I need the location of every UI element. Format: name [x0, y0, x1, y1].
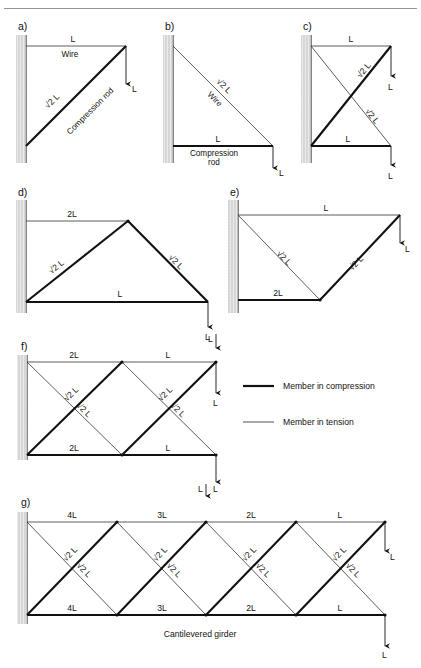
label-e-load: L: [405, 244, 410, 254]
label-g-top-chord-3: 2L: [246, 510, 256, 520]
label-c-load-top: L: [388, 82, 393, 92]
panel-f: f) 2L L 2L L √2 L √2 L √2 L √2 L L L L: [17, 334, 218, 494]
label-g-diag-1a: √2 L: [60, 544, 79, 563]
label-b-load: L: [279, 168, 284, 178]
truss-figure-sheet: a) L Wire √2 L Compression rod L b) √2 L…: [0, 0, 421, 668]
wall-support-f: [17, 355, 27, 460]
label-f-diag-b2: √2 L: [169, 400, 188, 419]
label-g-top-chord-1: 4L: [67, 510, 77, 520]
node-g-bottom-1: [115, 613, 118, 616]
label-g-diag-1b: √2 L: [75, 560, 94, 579]
label-g-bottom-chord-2: 3L: [157, 603, 167, 613]
label-g-top-chord-2: 3L: [157, 510, 167, 520]
label-a-top-chord: L: [71, 34, 76, 44]
panel-e: e) L 2L √2 L √2 L L: [228, 186, 410, 313]
label-c-diagonal-1: √2 L: [355, 60, 373, 79]
label-b-diagonal: √2 L: [215, 76, 234, 95]
label-a-top-chord-note: Wire: [62, 50, 79, 59]
label-g-diag-3b: √2 L: [254, 560, 273, 579]
label-c-diagonal-2: √2 L: [363, 106, 381, 125]
label-f-top-chord-1: 2L: [69, 350, 79, 360]
label-g-bottom-chord-3: 2L: [246, 603, 256, 613]
label-g-load-top: L: [198, 484, 203, 494]
label-a-diagonal-note: Compression rod: [65, 86, 116, 137]
label-g-bottom-chord-4: L: [338, 603, 343, 613]
label-b-bottom-chord-note-2: rod: [208, 158, 220, 167]
panel-d: d) 2L L √2 L √2 L L: [16, 186, 210, 342]
legend-tension-label: Member in tension: [283, 417, 354, 427]
node-e-bottom: [319, 299, 322, 302]
label-b-bottom-chord-note-1: Compression: [190, 149, 239, 158]
node-g-bottom-2: [204, 613, 207, 616]
label-g-diag-2b: √2 L: [165, 560, 184, 579]
label-f-top-chord-2: L: [166, 350, 171, 360]
label-e-top-chord: L: [324, 203, 329, 213]
panel-f-tag: f): [21, 340, 27, 352]
node-g-top-1: [115, 520, 118, 523]
label-e-diagonal-left: √2 L: [275, 248, 294, 267]
node-g-top-2: [204, 520, 207, 523]
panel-b-tag: b): [165, 20, 174, 32]
wall-support-a: [16, 35, 26, 163]
label-a-load: L: [132, 84, 137, 94]
wall-support-e: [228, 200, 238, 313]
label-d-bottom-chord: L: [118, 289, 123, 299]
label-c-load-bottom: L: [388, 171, 393, 181]
legend-compression-label: Member in compression: [283, 381, 375, 391]
panel-b: b) √2 L Wire L Compression rod L: [163, 20, 284, 178]
label-b-diagonal-note: Wire: [206, 90, 225, 109]
label-g-bottom-chord-1: 4L: [67, 603, 77, 613]
panel-a: a) L Wire √2 L Compression rod L: [16, 20, 137, 163]
node-f-top-mid: [120, 360, 123, 363]
label-f-bottom-chord-2: L: [166, 443, 171, 453]
label-f-load-mid: L: [213, 398, 218, 408]
member-d-diagonal-right: [128, 221, 208, 302]
label-b-bottom-chord: L: [216, 134, 221, 144]
wall-support-g: [17, 512, 27, 624]
label-g-diag-4b: √2 L: [344, 560, 363, 579]
member-b-diagonal: [173, 46, 273, 146]
label-f-diag-a2: √2 L: [75, 400, 94, 419]
label-d-diagonal-right: √2 L: [167, 252, 186, 271]
label-f-load-bottom: L: [213, 484, 218, 494]
caption-g: Cantilevered girder: [164, 629, 237, 639]
panel-c: c) L L √2 L √2 L L L: [301, 20, 393, 181]
wall-support-c: [301, 35, 311, 163]
node-g-bottom-3: [294, 613, 297, 616]
label-g-top-chord-4: L: [338, 510, 343, 520]
node-f-bottom-mid: [120, 453, 123, 456]
panel-d-tag: d): [18, 186, 27, 198]
label-f-load-top: L: [208, 334, 213, 344]
member-d-diagonal-left: [26, 221, 128, 302]
panel-g-tag: g): [21, 496, 30, 508]
label-f-diag-a1: √2 L: [61, 384, 80, 403]
wall-support-d: [16, 200, 26, 313]
label-c-bottom-chord: L: [346, 134, 351, 144]
node-g-top-3: [294, 520, 297, 523]
label-d-top-chord: 2L: [67, 209, 77, 219]
node-d-apex: [127, 220, 130, 223]
label-g-diag-4a: √2 L: [329, 544, 348, 563]
panel-c-tag: c): [303, 20, 312, 32]
label-g-load-bottom: L: [382, 650, 387, 660]
panel-g: g) 4L 3L 2L L 4L 3L 2L L: [17, 484, 395, 660]
label-c-top-chord: L: [349, 34, 354, 44]
label-f-bottom-chord-1: 2L: [69, 443, 79, 453]
legend: Member in compression Member in tension: [243, 381, 375, 427]
label-e-bottom-chord: 2L: [273, 288, 283, 298]
wall-support-b: [163, 35, 173, 163]
label-g-load-right: L: [390, 552, 395, 562]
panel-a-tag: a): [18, 20, 27, 32]
label-a-diagonal: √2 L: [42, 91, 61, 110]
label-f-diag-b1: √2 L: [155, 384, 174, 403]
label-g-diag-2a: √2 L: [150, 544, 169, 563]
panel-e-tag: e): [230, 186, 239, 198]
label-g-diag-3a: √2 L: [239, 544, 258, 563]
